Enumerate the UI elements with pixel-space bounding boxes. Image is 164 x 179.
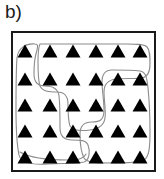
plot-box: [12, 32, 155, 171]
figure-canvas: [0, 0, 164, 179]
figure-panel: b): [0, 0, 164, 179]
